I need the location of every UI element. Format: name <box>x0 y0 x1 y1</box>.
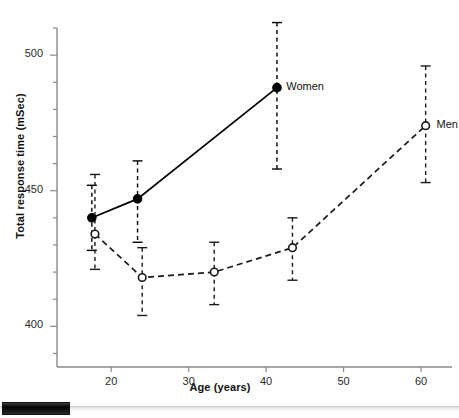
scrollbar-thumb[interactable] <box>2 402 70 415</box>
y-tick-label: 450 <box>9 183 43 195</box>
x-tick-label: 30 <box>174 375 204 387</box>
series-annotation-men: Men <box>437 118 458 130</box>
x-tick-label: 50 <box>329 375 359 387</box>
chart-figure: Total response time (mSec) Age (years) 4… <box>0 0 459 395</box>
y-tick-label: 400 <box>9 318 43 330</box>
plot-area <box>0 0 459 395</box>
data-series <box>87 23 431 316</box>
x-tick-label: 40 <box>251 375 281 387</box>
x-tick-label: 60 <box>406 375 436 387</box>
y-axis-title: Total response time (mSec) <box>14 76 26 256</box>
axes <box>50 28 452 372</box>
series-annotation-women: Women <box>286 80 324 92</box>
horizontal-scrollbar[interactable] <box>0 398 459 418</box>
x-axis-title: Age (years) <box>130 381 310 393</box>
x-tick-label: 20 <box>96 375 126 387</box>
y-tick-label: 500 <box>9 47 43 59</box>
